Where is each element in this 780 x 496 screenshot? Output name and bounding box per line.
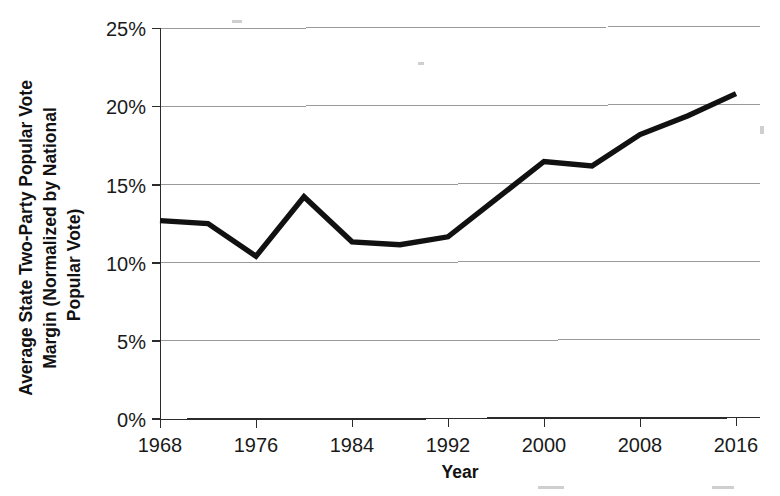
x-tick-label-1992: 1992 [426, 434, 471, 456]
y-axis-title-line-1: Average State Two-Party Popular Vote [16, 80, 36, 396]
line-chart: 25% 20% 15% 10% 5% 0% 1968 1976 1984 199… [0, 0, 780, 496]
y-tick-label-15: 15% [106, 175, 146, 197]
y-tick-label-20: 20% [106, 96, 146, 118]
x-axis-title: Year [442, 462, 479, 482]
x-tick-label-2000: 2000 [522, 434, 567, 456]
y-tick-label-5: 5% [117, 331, 146, 353]
x-tick-label-2008: 2008 [618, 434, 663, 456]
x-tick-label-1976: 1976 [234, 434, 279, 456]
y-tick-label-10: 10% [106, 253, 146, 275]
chart-figure: 25% 20% 15% 10% 5% 0% 1968 1976 1984 199… [0, 0, 780, 496]
y-tick-label-0: 0% [117, 409, 146, 431]
x-tick-label-1984: 1984 [330, 434, 375, 456]
x-tick-label-1968: 1968 [138, 434, 183, 456]
x-tick-label-2016: 2016 [714, 434, 759, 456]
y-axis-title-line-2: Margin (Normalized by National [40, 107, 60, 369]
y-tick-label-25: 25% [106, 18, 146, 40]
y-axis-title-line-3: Popular Vote) [64, 209, 84, 321]
